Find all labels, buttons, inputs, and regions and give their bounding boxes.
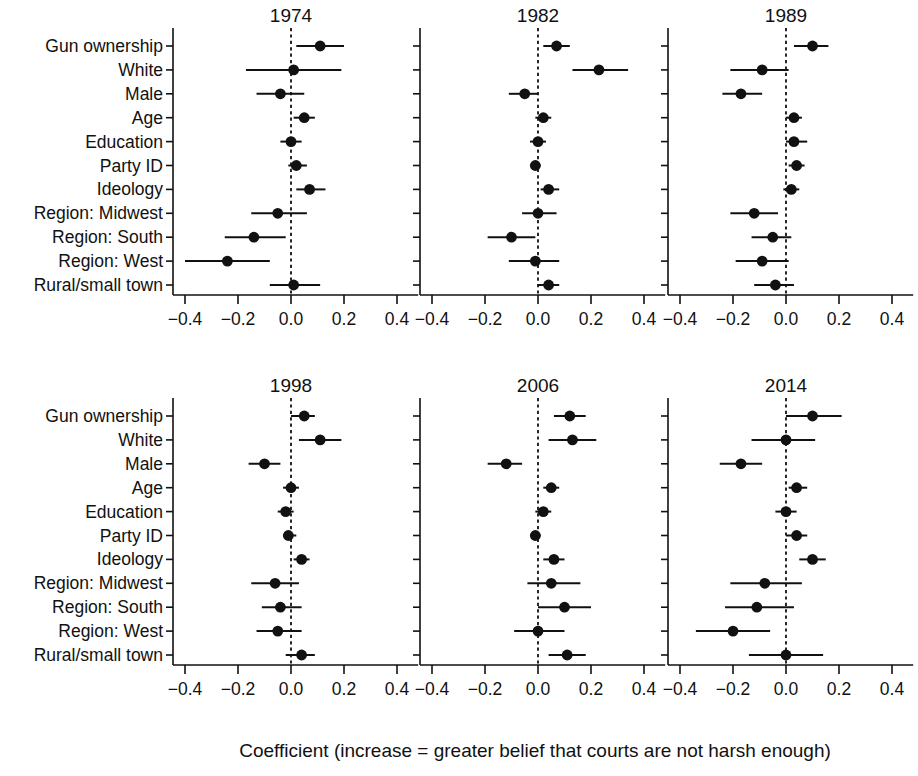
point-estimate-1998-3 <box>286 482 297 493</box>
point-estimate-1974-0 <box>315 41 326 52</box>
point-estimate-1982-5 <box>530 160 541 171</box>
point-estimate-1982-1 <box>594 65 605 76</box>
x-tick-label: −0.2 <box>716 679 751 699</box>
coefficient-plot-figure: 1974−0.4−0.20.00.20.4Gun ownershipWhiteM… <box>0 0 918 776</box>
point-estimate-1974-1 <box>288 65 299 76</box>
point-estimate-1998-0 <box>299 411 310 422</box>
point-estimate-2006-1 <box>567 435 578 446</box>
row-label-region-south: Region: South <box>52 227 163 247</box>
row-label-region-south: Region: South <box>52 597 163 617</box>
point-estimate-2006-8 <box>559 602 570 613</box>
panel-1998: 1998−0.4−0.20.00.20.4Gun ownershipWhiteM… <box>34 375 419 699</box>
row-label-party-id: Party ID <box>100 156 163 176</box>
point-estimate-1989-3 <box>789 112 800 123</box>
point-estimate-1998-2 <box>259 458 270 469</box>
row-label-region-west: Region: West <box>58 251 163 271</box>
point-estimate-2006-4 <box>538 506 549 517</box>
panel-2006: 2006−0.4−0.20.00.20.4 <box>413 375 665 699</box>
point-estimate-2014-9 <box>728 626 739 637</box>
x-tick-label: 0.4 <box>632 309 657 329</box>
point-estimate-1974-5 <box>291 160 302 171</box>
point-estimate-1982-2 <box>519 88 530 99</box>
row-label-rural-small-town: Rural/small town <box>34 645 163 665</box>
row-label-education: Education <box>85 132 163 152</box>
x-tick-label: −0.4 <box>168 679 203 699</box>
row-label-ideology: Ideology <box>97 179 163 199</box>
point-estimate-1982-6 <box>543 184 554 195</box>
panel-title-1998: 1998 <box>270 375 312 396</box>
point-estimate-1998-8 <box>275 602 286 613</box>
row-label-male: Male <box>125 84 163 104</box>
point-estimate-1974-7 <box>272 208 283 219</box>
point-estimate-2014-5 <box>791 530 802 541</box>
point-estimate-1982-8 <box>506 232 517 243</box>
row-label-gun-ownership: Gun ownership <box>45 406 163 426</box>
x-tick-label: 0.4 <box>880 309 905 329</box>
x-tick-label: −0.4 <box>663 309 698 329</box>
row-label-white: White <box>118 60 163 80</box>
x-tick-label: −0.4 <box>168 309 203 329</box>
panel-1989: 1989−0.4−0.20.00.20.4 <box>661 5 913 329</box>
point-estimate-1982-3 <box>538 112 549 123</box>
x-tick-label: 0.4 <box>880 679 905 699</box>
x-tick-label: 0.2 <box>827 679 851 699</box>
x-axis-caption: Coefficient (increase = greater belief t… <box>239 740 831 761</box>
point-estimate-2014-7 <box>759 578 770 589</box>
point-estimate-1974-10 <box>288 280 299 291</box>
panel-title-1989: 1989 <box>765 5 807 26</box>
x-tick-label: −0.4 <box>415 679 450 699</box>
point-estimate-1989-1 <box>757 65 768 76</box>
panel-title-1982: 1982 <box>517 5 559 26</box>
x-tick-label: −0.2 <box>468 309 503 329</box>
point-estimate-1989-8 <box>767 232 778 243</box>
forest-plot-svg: 1974−0.4−0.20.00.20.4Gun ownershipWhiteM… <box>0 0 918 776</box>
point-estimate-1998-1 <box>315 435 326 446</box>
point-estimate-1974-8 <box>249 232 260 243</box>
row-label-rural-small-town: Rural/small town <box>34 275 163 295</box>
point-estimate-1989-0 <box>807 41 818 52</box>
point-estimate-1974-4 <box>286 136 297 147</box>
point-estimate-1989-7 <box>749 208 760 219</box>
x-tick-label: −0.4 <box>415 309 450 329</box>
point-estimate-1974-9 <box>222 256 233 267</box>
panel-1982: 1982−0.4−0.20.00.20.4 <box>413 5 665 329</box>
x-tick-label: −0.2 <box>221 309 256 329</box>
row-label-region-midwest: Region: Midwest <box>34 203 163 223</box>
point-estimate-1982-0 <box>551 41 562 52</box>
point-estimate-2006-3 <box>546 482 557 493</box>
point-estimate-1982-10 <box>543 280 554 291</box>
x-tick-label: 0.0 <box>279 679 304 699</box>
point-estimate-1974-3 <box>299 112 310 123</box>
point-estimate-2014-3 <box>791 482 802 493</box>
row-label-education: Education <box>85 502 163 522</box>
panel-title-2014: 2014 <box>765 375 808 396</box>
point-estimate-1989-5 <box>791 160 802 171</box>
x-tick-label: −0.2 <box>221 679 256 699</box>
x-tick-label: −0.2 <box>468 679 503 699</box>
point-estimate-2014-8 <box>751 602 762 613</box>
x-tick-label: 0.0 <box>526 309 551 329</box>
point-estimate-1998-4 <box>280 506 291 517</box>
row-label-age: Age <box>132 108 163 128</box>
point-estimate-1989-6 <box>786 184 797 195</box>
x-tick-label: 0.0 <box>526 679 551 699</box>
row-label-gun-ownership: Gun ownership <box>45 36 163 56</box>
point-estimate-2014-10 <box>781 650 792 661</box>
point-estimate-2014-2 <box>736 458 747 469</box>
x-tick-label: 0.2 <box>579 309 603 329</box>
point-estimate-1974-6 <box>304 184 315 195</box>
point-estimate-1989-2 <box>736 88 747 99</box>
point-estimate-2006-5 <box>530 530 541 541</box>
point-estimate-1998-6 <box>296 554 307 565</box>
point-estimate-2006-0 <box>564 411 575 422</box>
point-estimate-2014-1 <box>781 435 792 446</box>
panel-2014: 2014−0.4−0.20.00.20.4 <box>661 375 913 699</box>
point-estimate-2006-9 <box>533 626 544 637</box>
point-estimate-1989-9 <box>757 256 768 267</box>
x-tick-label: 0.2 <box>332 309 356 329</box>
panel-title-2006: 2006 <box>517 375 559 396</box>
row-label-age: Age <box>132 478 163 498</box>
point-estimate-2014-6 <box>807 554 818 565</box>
point-estimate-2006-2 <box>501 458 512 469</box>
point-estimate-1998-7 <box>270 578 281 589</box>
